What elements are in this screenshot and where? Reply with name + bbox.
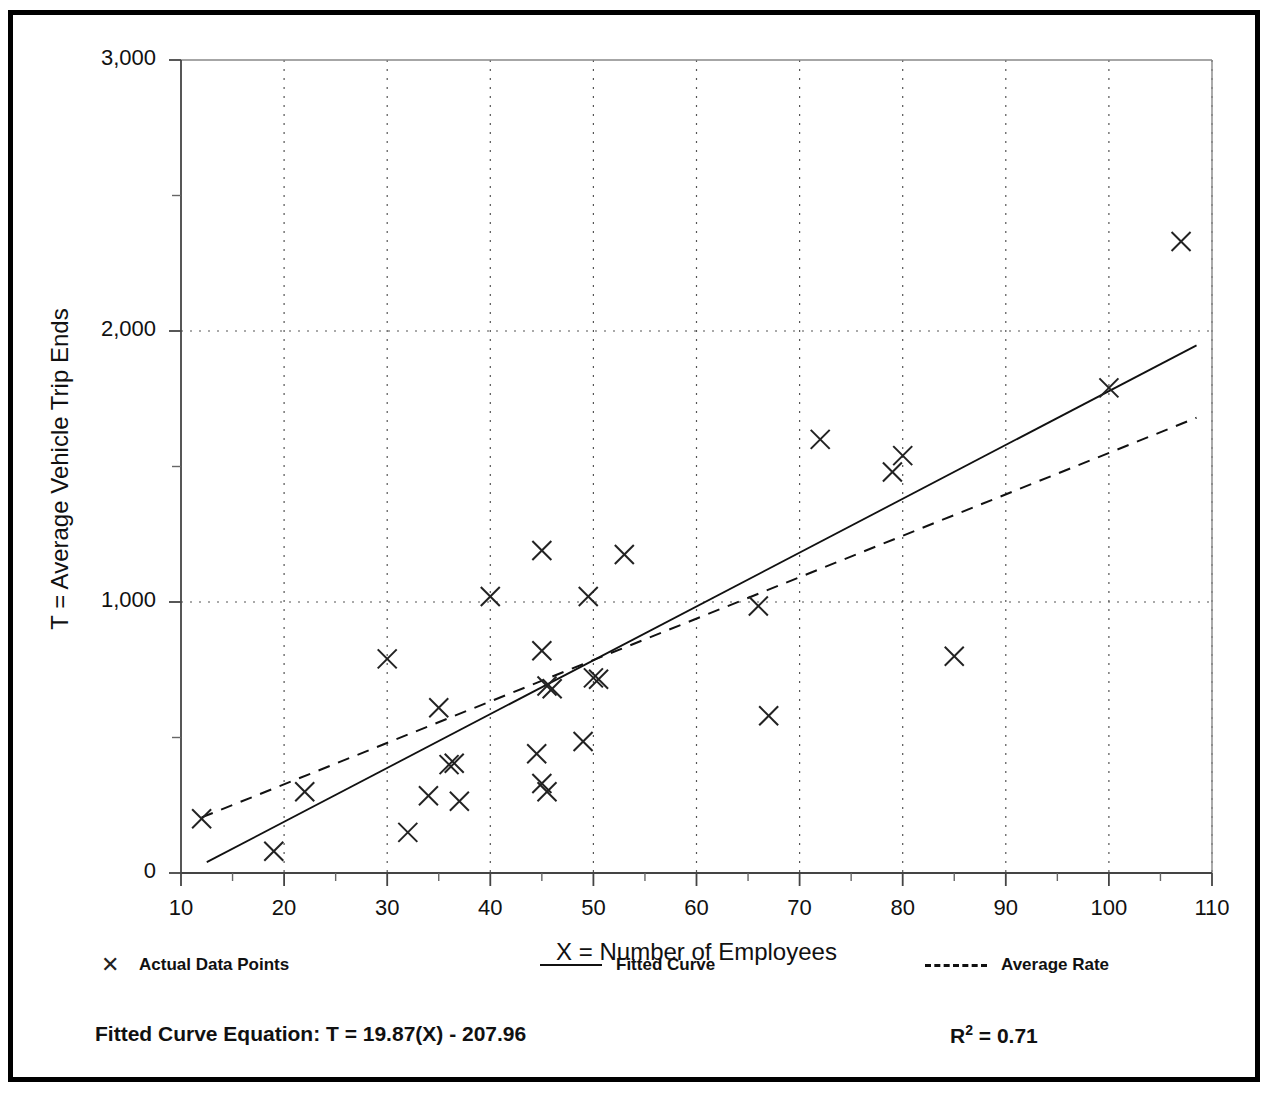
x-tick-label: 100 xyxy=(1069,895,1149,921)
scatter-chart: T = Average Vehicle Trip Ends X = Number… xyxy=(0,0,1272,1100)
x-tick-label: 20 xyxy=(244,895,324,921)
data-point-marker xyxy=(883,462,902,481)
chart-legend: ✕ Actual Data Points Fitted Curve Averag… xyxy=(95,955,1205,995)
r-squared-annotation: R2 = 0.71 xyxy=(950,1022,1038,1048)
data-point-marker xyxy=(579,587,598,606)
x-tick-label: 70 xyxy=(760,895,840,921)
x-tick-label: 110 xyxy=(1172,895,1252,921)
y-tick-label: 3,000 xyxy=(36,45,156,71)
x-tick-label: 90 xyxy=(966,895,1046,921)
data-point-marker xyxy=(450,792,469,811)
data-point-marker xyxy=(615,545,634,564)
data-point-marker xyxy=(192,809,211,828)
x-tick-label: 10 xyxy=(141,895,221,921)
dashed-line-icon xyxy=(925,957,987,973)
legend-item-average-rate: Average Rate xyxy=(925,955,1109,975)
r-squared-letter: R xyxy=(950,1024,965,1047)
data-point-marker xyxy=(378,649,397,668)
solid-line-icon xyxy=(540,957,602,973)
data-point-marker xyxy=(759,706,778,725)
y-tick-label: 1,000 xyxy=(36,587,156,613)
data-point-marker xyxy=(481,587,500,606)
r-squared-value: = 0.71 xyxy=(973,1024,1038,1047)
y-tick-label: 0 xyxy=(36,858,156,884)
data-point-marker xyxy=(811,430,830,449)
r-squared-exponent: 2 xyxy=(965,1022,973,1038)
legend-item-fitted-curve: Fitted Curve xyxy=(540,955,715,975)
data-point-marker xyxy=(749,597,768,616)
data-point-marker xyxy=(527,744,546,763)
equation-row: Fitted Curve Equation: T = 19.87(X) - 20… xyxy=(95,1022,1205,1062)
data-point-marker xyxy=(429,698,448,717)
data-point-marker xyxy=(295,782,314,801)
data-point-marker xyxy=(945,647,964,666)
data-point-marker xyxy=(264,842,283,861)
x-tick-label: 60 xyxy=(657,895,737,921)
x-tick-label: 30 xyxy=(347,895,427,921)
data-point-marker xyxy=(532,641,551,660)
data-point-marker xyxy=(419,786,438,805)
data-point-marker xyxy=(398,823,417,842)
data-point-marker xyxy=(532,541,551,560)
data-point-marker xyxy=(1172,232,1191,251)
x-tick-label: 80 xyxy=(863,895,943,921)
x-tick-label: 50 xyxy=(553,895,633,921)
data-point-marker xyxy=(893,446,912,465)
x-tick-label: 40 xyxy=(450,895,530,921)
data-point-marker xyxy=(574,732,593,751)
x-marker-icon: ✕ xyxy=(95,957,125,973)
average-rate-line xyxy=(202,418,1197,818)
plot-area-svg xyxy=(0,0,1272,1100)
data-point-marker xyxy=(538,782,557,801)
fitted-curve-line xyxy=(207,345,1197,862)
legend-label-average-rate: Average Rate xyxy=(1001,955,1109,975)
y-tick-label: 2,000 xyxy=(36,316,156,342)
fitted-curve-equation: Fitted Curve Equation: T = 19.87(X) - 20… xyxy=(95,1022,526,1046)
legend-label-fitted-curve: Fitted Curve xyxy=(616,955,715,975)
legend-item-actual-data-points: ✕ Actual Data Points xyxy=(95,955,289,975)
legend-label-actual-data-points: Actual Data Points xyxy=(139,955,289,975)
